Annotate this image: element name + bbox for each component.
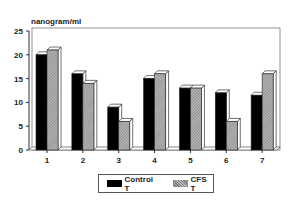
y-tick-label: 20: [14, 51, 23, 60]
bar-cfs-6: [226, 121, 237, 150]
cfs-swatch: [173, 180, 188, 187]
y-tick-label: 10: [14, 98, 23, 107]
bar-control-7: [251, 95, 262, 150]
y-tick-label: 25: [14, 27, 23, 36]
y-axis-label: nanogram/ml: [31, 17, 81, 26]
y-tick-label: 15: [14, 75, 23, 84]
legend: Control T CFS T: [98, 174, 214, 193]
x-tick-label: 5: [188, 156, 193, 165]
x-tick-label: 3: [116, 156, 121, 165]
bar-cfs-4: [155, 74, 166, 150]
bar-cfs-7: [262, 74, 273, 150]
legend-control-label: Control T: [125, 175, 159, 193]
bar-control-3: [108, 107, 119, 150]
bars: [36, 47, 276, 150]
control-swatch: [107, 180, 122, 187]
bar-control-2: [72, 74, 83, 150]
bar-cfs-3: [119, 121, 130, 150]
x-tick-label: 4: [152, 156, 157, 165]
bar-control-1: [36, 55, 47, 150]
x-tick-label: 6: [224, 156, 229, 165]
x-tick-label: 2: [81, 156, 86, 165]
bar-control-4: [144, 79, 155, 150]
bar-cfs-2: [83, 83, 94, 150]
legend-cfs-label: CFS T: [191, 175, 213, 193]
bar-control-5: [179, 88, 190, 150]
x-tick-label: 1: [45, 156, 50, 165]
bar-cfs-5: [190, 88, 201, 150]
y-tick-label: 5: [19, 122, 24, 131]
y-tick-label: 0: [19, 146, 24, 155]
bar-cfs-1: [47, 50, 58, 150]
x-tick-label: 7: [260, 156, 265, 165]
bar-control-6: [215, 93, 226, 150]
